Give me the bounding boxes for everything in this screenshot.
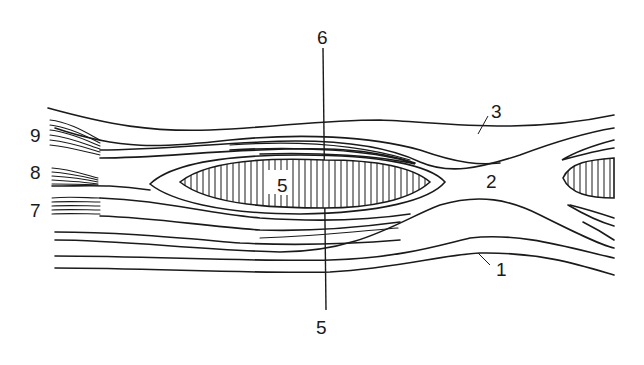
streamline-8 (52, 186, 150, 190)
streamline-diagram (0, 0, 644, 365)
label-9: 9 (30, 126, 41, 145)
label-7: 7 (30, 201, 41, 220)
label-6: 6 (317, 28, 328, 47)
inlet-bundle-8 (52, 168, 98, 185)
label-5: 5 (276, 176, 289, 195)
label-4: 5 (316, 318, 327, 337)
streamline-lower-2 (100, 216, 400, 230)
streamline-1 (55, 253, 614, 275)
leader-1 (478, 253, 490, 265)
streamline-3 (55, 128, 500, 164)
inlet-bundle-7 (52, 197, 100, 214)
right-wedge-lower-1 (570, 205, 614, 218)
right-wedge-upper (562, 140, 614, 160)
streamline-lower-4 (55, 237, 614, 261)
label-3: 3 (491, 102, 502, 121)
label-2: 2 (486, 172, 497, 191)
label-1: 1 (496, 260, 507, 279)
streamline-top-outer (48, 108, 614, 130)
label-8: 8 (30, 163, 41, 182)
inlet-bundle-9 (50, 120, 100, 155)
right-body (563, 158, 614, 198)
streamline-top-inner-b (230, 143, 410, 160)
